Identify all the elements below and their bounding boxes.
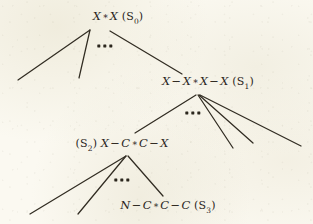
node-tag-subscript: 2 [88, 144, 93, 153]
token-star: ∗ [191, 76, 200, 86]
tree-edge [128, 156, 163, 196]
token-sym: C [139, 136, 148, 150]
token-op: − [130, 198, 142, 212]
node-tag-s3: (S3) [191, 199, 216, 212]
derivation-tree-figure: X∗X(S0)X−X∗X−X(S1)(S2)X−C∗C−XN−C∗C−C(S3) [0, 0, 313, 224]
token-op: − [169, 198, 181, 212]
node-tag-subscript: 1 [244, 82, 249, 91]
node-expression-s3: N−C∗C−C [120, 198, 190, 212]
ellipsis-dot [185, 112, 188, 115]
token-sym: X [101, 136, 109, 150]
token-star: ∗ [152, 200, 161, 210]
ellipsis-dot [121, 179, 124, 182]
node-expression-s0: X∗X [93, 9, 118, 23]
node-tag-letter: S [199, 199, 207, 212]
tree-edge [30, 156, 126, 214]
token-sym: C [160, 198, 169, 212]
ellipsis-s2 [114, 179, 129, 182]
token-sym: X [183, 74, 191, 88]
token-sym: N [120, 198, 130, 212]
node-label-s1: X−X∗X−X(S1) [162, 74, 254, 90]
node-label-s3: N−C∗C−C(S3) [120, 198, 216, 214]
ellipsis-dot [110, 45, 113, 48]
ellipsis-dot [114, 179, 117, 182]
node-label-s2: (S2)X−C∗C−X [75, 136, 168, 152]
node-expression-s1: X−X∗X−X [162, 74, 229, 88]
ellipsis-dot [127, 179, 130, 182]
ellipsis-s0 [97, 45, 112, 48]
node-tag-subscript: 0 [134, 17, 139, 26]
token-star: ∗ [130, 138, 139, 148]
token-sym: X [220, 74, 228, 88]
tree-edge [199, 95, 253, 143]
token-op: − [109, 136, 121, 150]
token-sym: X [200, 74, 208, 88]
ellipsis-dot [198, 112, 201, 115]
token-star: ∗ [101, 11, 110, 21]
token-op: − [208, 74, 220, 88]
node-tag-s1: (S1) [229, 75, 254, 88]
tree-edge [110, 31, 182, 74]
tree-edge [18, 30, 90, 80]
ellipsis-dot [97, 45, 100, 48]
ellipsis-s1 [185, 112, 200, 115]
node-tag-subscript: 3 [206, 206, 211, 215]
ellipsis-dot [104, 45, 107, 48]
token-sym: X [160, 136, 168, 150]
tree-edges-layer [0, 0, 313, 224]
token-op: − [148, 136, 160, 150]
node-label-s0: X∗X(S0) [93, 9, 144, 25]
node-tag-s0: (S0) [118, 10, 143, 23]
node-expression-s2: X−C∗C−X [97, 136, 168, 150]
token-sym: C [121, 136, 130, 150]
token-op: − [170, 74, 182, 88]
tree-edge [78, 156, 126, 214]
ellipsis-dot [192, 112, 195, 115]
node-tag-s2: (S2) [75, 137, 97, 150]
